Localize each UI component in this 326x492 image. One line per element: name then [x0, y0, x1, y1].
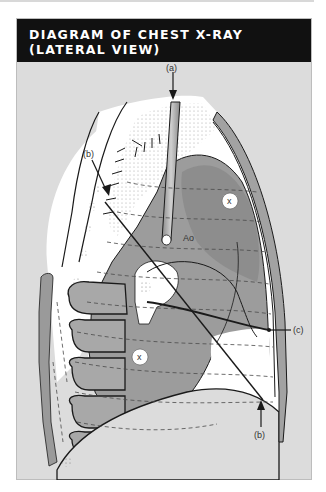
- label-b-bottom: (b): [254, 430, 265, 440]
- label-x-upper: x: [227, 196, 232, 206]
- label-c: (c): [293, 325, 304, 335]
- label-a: (a): [166, 63, 177, 73]
- label-b-top: (b): [83, 149, 94, 159]
- chest-xray-illustration: (a) (b) (c) (b) Ao x: [17, 62, 313, 480]
- arrow-a: [169, 72, 177, 100]
- label-aorta: Ao: [183, 233, 194, 243]
- label-x-lower: x: [137, 352, 142, 362]
- figure-title-line-2: (LATERAL VIEW): [29, 42, 311, 57]
- chest-xray-figure: DIAGRAM OF CHEST X-RAY (LATERAL VIEW): [16, 18, 312, 480]
- figure-header: DIAGRAM OF CHEST X-RAY (LATERAL VIEW): [17, 19, 311, 62]
- diagram-panel: (a) (b) (c) (b) Ao x: [17, 62, 311, 480]
- top-rule: [0, 0, 314, 2]
- figure-title-line-1: DIAGRAM OF CHEST X-RAY: [29, 27, 311, 42]
